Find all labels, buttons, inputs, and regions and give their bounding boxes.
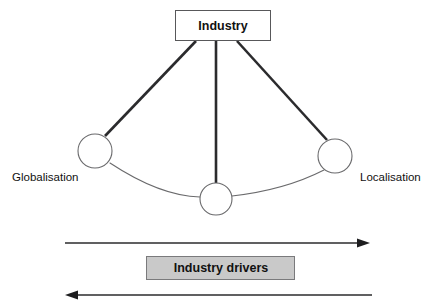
localisation-circle[interactable]	[318, 139, 352, 173]
arc-globalisation-to-center	[110, 163, 200, 197]
arc-center-to-localisation	[232, 170, 324, 196]
spoke-to-localisation	[237, 41, 327, 140]
spoke-to-globalisation	[105, 41, 196, 136]
industry-box[interactable]: Industry	[176, 11, 271, 41]
industry-drivers-bar[interactable]: Industry drivers	[147, 257, 295, 280]
industry-drivers-diagram: Industry Globalisation Localisation Indu…	[0, 0, 433, 306]
globalisation-label: Globalisation	[12, 171, 78, 183]
industry-box-label: Industry	[198, 19, 247, 33]
arrow-left	[65, 290, 372, 299]
globalisation-circle[interactable]	[78, 134, 112, 168]
arrow-right	[65, 238, 370, 247]
arrow-right-head	[357, 238, 370, 247]
spoke-group	[105, 41, 327, 183]
industry-drivers-label: Industry drivers	[174, 261, 269, 275]
diagram-canvas: Industry Globalisation Localisation Indu…	[0, 0, 433, 306]
center-circle[interactable]	[200, 183, 232, 215]
localisation-label: Localisation	[360, 171, 421, 183]
arrow-left-head	[65, 290, 78, 299]
